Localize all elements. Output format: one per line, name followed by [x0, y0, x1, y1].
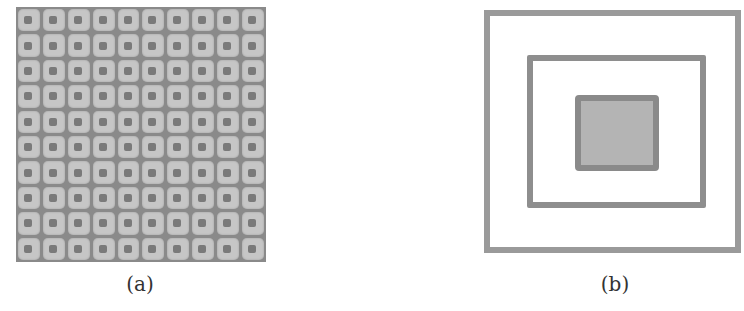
cell-dot — [74, 245, 82, 253]
cell-dot — [223, 16, 231, 24]
cell-dot — [124, 92, 132, 100]
cell-dot — [223, 194, 231, 202]
grid-cell — [142, 34, 164, 56]
cell-dot — [49, 143, 57, 151]
cell-dot — [248, 245, 256, 253]
cell-dot — [74, 194, 82, 202]
cell-dot — [49, 245, 57, 253]
grid-cell — [167, 9, 189, 31]
grid-cell — [142, 136, 164, 158]
grid-cell — [192, 111, 214, 133]
grid-cell — [93, 85, 115, 107]
grid-cell — [118, 161, 140, 183]
cell-dot — [99, 143, 107, 151]
cell-dot — [248, 143, 256, 151]
grid-cell — [93, 238, 115, 260]
grid-cell — [217, 9, 239, 31]
grid-cell — [192, 34, 214, 56]
cell-dot — [49, 16, 57, 24]
grid-cell — [167, 187, 189, 209]
cell-dot — [99, 219, 107, 227]
cell-dot — [223, 169, 231, 177]
cell-dot — [124, 118, 132, 126]
cell-dot — [148, 118, 156, 126]
cell-dot — [173, 143, 181, 151]
cell-dot — [148, 194, 156, 202]
grid-cell — [18, 187, 40, 209]
grid-cell — [18, 85, 40, 107]
cell-dot — [223, 92, 231, 100]
grid-cell — [93, 111, 115, 133]
cell-dot — [223, 245, 231, 253]
grid-cell — [118, 60, 140, 82]
cell-dot — [248, 219, 256, 227]
cell-dot — [124, 42, 132, 50]
cell-dot — [99, 16, 107, 24]
grid-cell — [93, 9, 115, 31]
grid-cell — [93, 187, 115, 209]
cell-dot — [99, 118, 107, 126]
grid-cell — [192, 212, 214, 234]
cell-dot — [24, 194, 32, 202]
grid-cell — [68, 9, 90, 31]
grid-cell — [167, 111, 189, 133]
cell-dot — [173, 194, 181, 202]
cell-dot — [148, 92, 156, 100]
cell-dot — [124, 169, 132, 177]
cell-dot — [198, 169, 206, 177]
grid-cell — [167, 85, 189, 107]
cell-dot — [24, 92, 32, 100]
cell-dot — [173, 67, 181, 75]
grid-cell — [93, 60, 115, 82]
grid-cell — [217, 136, 239, 158]
cell-dot — [49, 67, 57, 75]
cell-dot — [24, 42, 32, 50]
cell-dot — [49, 169, 57, 177]
grid-cell — [43, 85, 65, 107]
grid-cell — [68, 212, 90, 234]
grid-cell — [242, 136, 264, 158]
cell-dot — [198, 143, 206, 151]
cell-dot — [24, 143, 32, 151]
grid-cell — [242, 60, 264, 82]
cell-dot — [24, 219, 32, 227]
grid-cell — [43, 136, 65, 158]
cell-dot — [74, 169, 82, 177]
grid-cell — [18, 60, 40, 82]
grid-cell — [167, 34, 189, 56]
cell-dot — [198, 16, 206, 24]
grid-cell — [167, 60, 189, 82]
cell-dot — [223, 219, 231, 227]
grid-cell — [68, 34, 90, 56]
grid-cell — [43, 238, 65, 260]
grid-cell — [118, 212, 140, 234]
cell-dot — [198, 118, 206, 126]
cell-dot — [49, 92, 57, 100]
grid-cell — [167, 136, 189, 158]
cell-dot — [198, 92, 206, 100]
cell-dot — [24, 245, 32, 253]
grid-cell — [217, 111, 239, 133]
grid-cell — [217, 34, 239, 56]
cell-dot — [24, 169, 32, 177]
grid-cell — [142, 238, 164, 260]
grid-cell — [118, 9, 140, 31]
cell-dot — [49, 42, 57, 50]
cell-dot — [74, 16, 82, 24]
grid-cell — [118, 111, 140, 133]
cell-dot — [24, 67, 32, 75]
cell-dot — [223, 118, 231, 126]
cell-dot — [173, 16, 181, 24]
grid-cell — [217, 212, 239, 234]
grid-cell — [217, 60, 239, 82]
grid-cell — [18, 111, 40, 133]
cell-dot — [223, 143, 231, 151]
grid-cell — [68, 136, 90, 158]
grid-cell — [118, 136, 140, 158]
grid-cell — [68, 111, 90, 133]
grid-cell — [43, 187, 65, 209]
cell-dot — [148, 16, 156, 24]
grid-cell — [18, 136, 40, 158]
cell-dot — [173, 118, 181, 126]
grid-cell — [68, 187, 90, 209]
